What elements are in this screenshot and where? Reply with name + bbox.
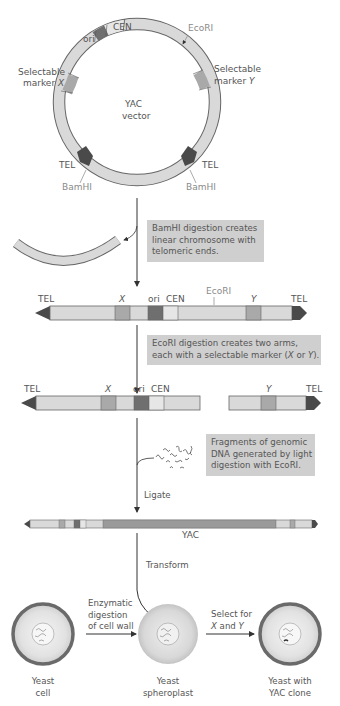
ecori-label: EcoRI — [188, 23, 213, 33]
marker-x-label-1: Selectable — [18, 67, 65, 77]
yac-vector-label-1: YAC — [124, 99, 142, 109]
yac-clone-caption: Yeast with YAC clone — [258, 676, 322, 699]
spheroplast-caption: Yeast spheroplast — [133, 676, 203, 699]
tel-right-label: TEL — [201, 160, 218, 170]
transform-label: Transform — [146, 560, 189, 572]
linear-ori: ori — [148, 294, 160, 304]
ori-label: ori — [83, 34, 95, 44]
genomic-dna-fragments-icon — [156, 446, 192, 468]
arm-ori: ori — [133, 384, 145, 394]
left-arm — [21, 396, 200, 410]
bamhi-right-label: BamHI — [186, 182, 216, 192]
right-arm — [229, 396, 321, 410]
note-genomic-fragments: Fragments of genomic DNA generated by li… — [206, 434, 315, 476]
arm-x: X — [104, 384, 112, 394]
linear-y: Y — [251, 294, 258, 304]
note-line: linear chromosome with — [152, 235, 259, 247]
linear-x: X — [118, 294, 126, 304]
linear-cen: CEN — [166, 294, 185, 304]
linear-tel-left: TEL — [37, 294, 54, 304]
yac-label: YAC — [181, 530, 199, 540]
marker-y-label-1: Selectable — [214, 64, 261, 74]
ligate-label: Ligate — [144, 490, 171, 502]
digestion-label: Enzymatic digestion of cell wall — [88, 598, 134, 633]
arm-tel-right: TEL — [305, 384, 322, 394]
yeast-cell — [13, 604, 73, 664]
select-label: Select for X and Y — [211, 609, 252, 632]
linear-ecori: EcoRI — [206, 286, 231, 296]
note-line: BamHI digestion creates — [152, 223, 259, 235]
note-bamhi-digestion: BamHI digestion creates linear chromosom… — [147, 220, 264, 262]
yeast-with-yac — [260, 604, 320, 664]
note-line: Fragments of genomic — [211, 437, 310, 449]
linear-tel-right: TEL — [290, 294, 307, 304]
marker-x-segment — [67, 76, 74, 92]
marker-y-segment — [198, 73, 205, 89]
note-line: telomeric ends. — [152, 246, 259, 258]
arm-y: Y — [266, 384, 273, 394]
arrow-transform — [137, 533, 152, 616]
yac-vector-label-2: vector — [122, 111, 151, 121]
note-line: digestion with EcoRI. — [211, 460, 310, 472]
arm-tel-left: TEL — [23, 384, 40, 394]
marker-y-label-2: marker Y — [214, 76, 256, 86]
arm-cen: CEN — [151, 384, 170, 394]
note-line: each with a selectable marker (X or Y). — [152, 350, 316, 362]
yeast-spheroplast — [138, 604, 198, 664]
ori-segment — [96, 30, 107, 36]
note-ecori-digestion: EcoRI digestion creates two arms, each w… — [147, 335, 321, 365]
yeast-cell-caption: Yeast cell — [18, 676, 68, 699]
recombinant-yac — [24, 520, 318, 528]
marker-x-label-2: marker X — [23, 78, 65, 88]
cen-label: CEN — [113, 22, 132, 32]
linear-yac-chromosome — [35, 306, 307, 320]
genomic-insert — [103, 520, 276, 528]
note-line: EcoRI digestion creates two arms, — [152, 338, 316, 350]
tel-left-label: TEL — [58, 160, 75, 170]
note-line: DNA generated by light — [211, 449, 310, 461]
bamhi-left-label: BamHI — [62, 182, 92, 192]
